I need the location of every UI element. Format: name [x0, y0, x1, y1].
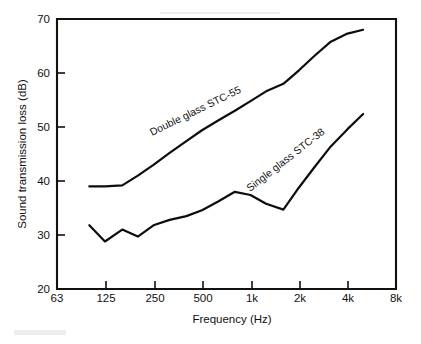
- x-tick-label-63: 63: [51, 292, 64, 304]
- sound-transmission-loss-chart: 70 60 50 40 30 20 63 125 250 500 1k 2k 4…: [0, 0, 421, 344]
- x-tick-label-8k: 8k: [390, 292, 402, 304]
- y-tick-label-60: 60: [37, 67, 50, 79]
- x-tick-label-1k: 1k: [246, 292, 258, 304]
- x-tick-label-125: 125: [96, 292, 115, 304]
- y-tick-label-40: 40: [37, 175, 50, 187]
- y-tick-label-30: 30: [37, 229, 50, 241]
- y-tick-label-50: 50: [37, 121, 50, 133]
- y-axis-title: Sound transmission loss (dB): [16, 79, 28, 229]
- scan-artifact-top: [160, 12, 280, 14]
- x-axis-title: Frequency (Hz): [192, 313, 271, 325]
- x-tick-label-500: 500: [193, 292, 212, 304]
- x-tick-label-2k: 2k: [294, 292, 306, 304]
- chart-figure: 70 60 50 40 30 20 63 125 250 500 1k 2k 4…: [0, 0, 421, 344]
- y-tick-label-20: 20: [37, 283, 50, 295]
- y-tick-label-70: 70: [37, 13, 50, 25]
- x-tick-label-4k: 4k: [342, 292, 354, 304]
- scan-artifact-bottom: [14, 330, 66, 335]
- x-tick-label-250: 250: [145, 292, 164, 304]
